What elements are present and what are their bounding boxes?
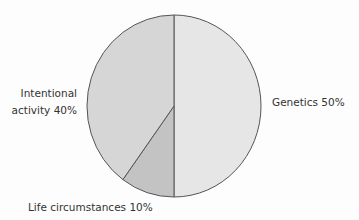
pie-slice-genetics: [174, 15, 261, 197]
pie-slices: [87, 15, 261, 197]
slice-label-genetics: Genetics 50%: [272, 96, 345, 108]
pie-chart: Genetics 50%Life circumstances 10%Intent…: [0, 0, 359, 220]
slice-label-intentional-activity: Intentionalactivity 40%: [12, 87, 77, 116]
slice-label-life-circumstances: Life circumstances 10%: [28, 201, 153, 213]
